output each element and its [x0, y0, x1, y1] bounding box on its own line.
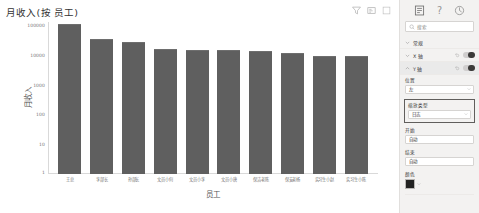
chevron-up-icon	[405, 66, 410, 71]
search-placeholder: 搜索	[417, 24, 427, 30]
start-input[interactable]: 自动	[405, 135, 474, 145]
field-label-position: 位置	[405, 77, 474, 83]
plot-area	[48, 22, 378, 174]
field-color: 颜色	[400, 169, 479, 192]
visual-header-icons	[352, 6, 391, 15]
position-value: 左	[409, 86, 413, 92]
section-label-x-axis: X 轴	[413, 52, 452, 59]
field-end: 结束 自动	[400, 147, 479, 169]
toggle-knob	[468, 52, 475, 59]
bar-column[interactable]	[54, 22, 86, 174]
help-tab-icon[interactable]: ?	[434, 5, 445, 16]
bar-column[interactable]	[213, 22, 245, 174]
bar-column[interactable]	[181, 22, 213, 174]
pane-tab-strip: ?	[400, 0, 479, 20]
x-tick-label: 王总	[54, 176, 86, 188]
section-x-axis[interactable]: X 轴	[400, 49, 479, 62]
more-options-icon[interactable]	[382, 6, 391, 15]
pane-next-section-divider	[405, 194, 474, 203]
toggle-y-axis[interactable]	[463, 65, 474, 71]
chart-visual[interactable]: 月收入(按 员工) 月收入 100000 10000 1000 100	[0, 0, 399, 213]
y-tick-label: 100	[36, 112, 45, 117]
chevron-down-icon	[405, 53, 410, 58]
bar-column[interactable]	[308, 22, 340, 174]
field-scale-type: 缩放类型 日志	[404, 99, 475, 123]
bar-column[interactable]	[277, 22, 309, 174]
bar-column[interactable]	[340, 22, 372, 174]
scale-type-dropdown[interactable]: 日志	[408, 110, 471, 120]
format-pane: ? 搜索 常规 X 轴	[399, 0, 479, 213]
format-tab-icon[interactable]	[414, 5, 425, 16]
svg-text:?: ?	[437, 5, 442, 16]
field-label-scale-type: 缩放类型	[408, 102, 471, 108]
end-input[interactable]: 自动	[405, 157, 474, 167]
y-axis: 月收入 100000 10000 1000 100 10 1	[20, 22, 47, 174]
bar-column[interactable]	[245, 22, 277, 174]
x-axis-title: 员工	[48, 188, 378, 199]
bar-column[interactable]	[86, 22, 118, 174]
bar[interactable]	[217, 50, 240, 174]
field-start: 开始 自动	[400, 125, 479, 147]
section-label-general: 常规	[413, 39, 474, 46]
bar-column[interactable]	[118, 22, 150, 174]
color-swatch[interactable]	[405, 179, 415, 189]
visual-header: 月收入(按 员工)	[6, 4, 393, 20]
chevron-down-icon	[405, 40, 410, 45]
revert-icon[interactable]	[455, 53, 460, 58]
power-bi-visual-editor: 月收入(按 员工) 月收入 100000 10000 1000 100	[0, 0, 479, 213]
bar[interactable]	[58, 24, 81, 174]
bar-series	[48, 22, 378, 174]
focus-mode-icon[interactable]	[367, 6, 376, 15]
x-tick-label: 文员小唐	[213, 176, 245, 188]
x-tick-label: 文员小李	[181, 176, 213, 188]
scale-type-value: 日志	[412, 111, 420, 117]
chart-title: 月收入(按 员工)	[6, 5, 78, 19]
x-tick-label: 保安老杨	[277, 176, 309, 188]
y-tick-label: 10	[39, 142, 45, 147]
position-dropdown[interactable]: 左	[405, 85, 474, 95]
filter-icon[interactable]	[352, 6, 361, 15]
chevron-down-icon	[417, 182, 421, 186]
x-tick-label: 李部长	[86, 176, 118, 188]
revert-icon[interactable]	[455, 66, 460, 71]
section-label-y-axis: Y 轴	[413, 65, 452, 72]
y-tick-label: 100000	[27, 23, 45, 28]
bar[interactable]	[249, 51, 272, 174]
search-input[interactable]: 搜索	[405, 21, 474, 32]
field-label-color: 颜色	[405, 171, 474, 177]
section-y-axis[interactable]: Y 轴	[400, 62, 479, 75]
bar[interactable]	[122, 42, 145, 174]
start-value: 自动	[409, 136, 417, 142]
bar[interactable]	[186, 50, 209, 174]
x-axis: 王总李部长孙部长文员小何文员小李文员小唐保洁老陈保安老杨实习生小赵实习生小陈	[48, 176, 378, 188]
x-tick-label: 文员小何	[149, 176, 181, 188]
field-position: 位置 左	[400, 75, 479, 97]
section-controls-x-axis	[455, 52, 474, 58]
section-general[interactable]: 常规	[400, 36, 479, 49]
bar[interactable]	[90, 39, 113, 174]
x-tick-label: 保洁老陈	[245, 176, 277, 188]
x-tick-label: 孙部长	[118, 176, 150, 188]
y-tick-label: 1	[42, 170, 45, 175]
analytics-tab-icon[interactable]	[454, 5, 465, 16]
end-value: 自动	[409, 158, 417, 164]
y-tick-label: 1000	[33, 82, 45, 87]
x-tick-label: 实习生小赵	[308, 176, 340, 188]
bar[interactable]	[345, 56, 368, 174]
chevron-down-icon	[467, 87, 471, 91]
x-tick-label: 实习生小陈	[340, 176, 372, 188]
y-tick-label: 10000	[30, 52, 45, 57]
color-picker[interactable]	[405, 179, 474, 189]
field-label-end: 结束	[405, 149, 474, 155]
bar[interactable]	[281, 53, 304, 174]
bar[interactable]	[154, 49, 177, 174]
search-icon	[409, 24, 415, 30]
bar[interactable]	[313, 56, 336, 174]
toggle-x-axis[interactable]	[463, 52, 474, 58]
field-label-start: 开始	[405, 127, 474, 133]
toggle-knob	[468, 65, 475, 72]
y-axis-title: 月收入	[22, 87, 33, 108]
bar-column[interactable]	[149, 22, 181, 174]
chevron-down-icon	[464, 112, 468, 116]
section-controls-y-axis	[455, 65, 474, 71]
